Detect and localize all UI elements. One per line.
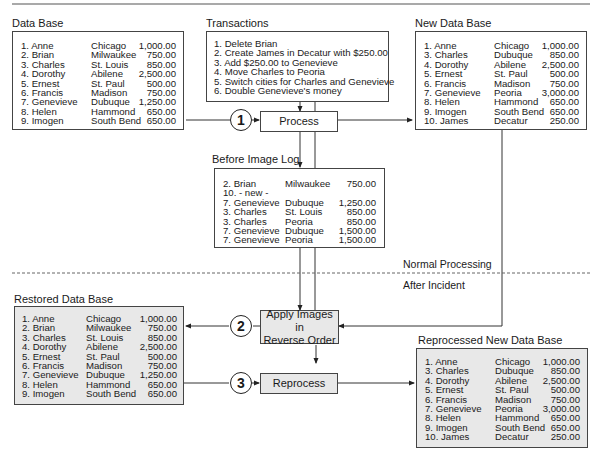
- data-base-title: Data Base: [12, 17, 63, 29]
- apply-images-box: Apply Images in Reverse Order: [260, 310, 339, 344]
- before-image-log-title: Before Image Log: [212, 153, 299, 165]
- restored-data-base-box: 1. AnneChicago1,000.00 2. BrianMilwaukee…: [14, 306, 184, 405]
- process-box: Process: [260, 111, 338, 132]
- table-row: 10. JamesDecatur250.00: [425, 432, 580, 441]
- data-base-table: 1. AnneChicago1,000.00 2. BrianMilwaukee…: [21, 41, 176, 126]
- restored-data-base-table: 1. AnneChicago1,000.00 2. BrianMilwaukee…: [22, 314, 177, 399]
- before-image-log-table: 2. BrianMilwaukee750.00 10. - new - 7. G…: [223, 179, 378, 245]
- list-item: 6. Double Genevieve's money: [214, 86, 394, 95]
- new-data-base-table: 1. AnneChicago1,000.00 3. CharlesDubuque…: [424, 41, 579, 126]
- new-data-base-box: 1. AnneChicago1,000.00 3. CharlesDubuque…: [415, 31, 587, 130]
- table-row: 9. ImogenSouth Bend650.00: [21, 116, 176, 125]
- apply-images-label-line1: Apply Images in: [261, 308, 338, 334]
- table-row: 7. GenevievePeoria1,500.00: [223, 235, 378, 244]
- table-row: 10. JamesDecatur250.00: [424, 116, 579, 125]
- data-base-box: 1. AnneChicago1,000.00 2. BrianMilwaukee…: [12, 31, 184, 130]
- before-image-log-box: 2. BrianMilwaukee750.00 10. - new - 7. G…: [214, 168, 385, 248]
- new-data-base-title: New Data Base: [415, 17, 491, 29]
- table-row: 9. ImogenSouth Bend650.00: [22, 389, 177, 398]
- step-3-badge: 3: [230, 372, 252, 394]
- reprocess-box: Reprocess: [260, 373, 338, 394]
- reprocessed-new-data-base-table: 1. AnneChicago1,000.00 3. CharlesDubuque…: [425, 357, 580, 442]
- after-incident-label: After Incident: [403, 279, 465, 291]
- transactions-list: 1. Delete Brian 2. Create James in Decat…: [214, 39, 394, 95]
- normal-processing-label: Normal Processing: [403, 258, 492, 270]
- step-1-badge: 1: [230, 109, 252, 131]
- reprocessed-new-data-base-title: Reprocessed New Data Base: [418, 334, 562, 346]
- transactions-box: 1. Delete Brian 2. Create James in Decat…: [206, 31, 389, 102]
- reprocessed-new-data-base-box: 1. AnneChicago1,000.00 3. CharlesDubuque…: [416, 348, 588, 448]
- step-2-badge: 2: [230, 315, 252, 337]
- transactions-title: Transactions: [206, 17, 269, 29]
- restored-data-base-title: Restored Data Base: [14, 293, 113, 305]
- apply-images-label-line2: Reverse Order: [263, 334, 335, 347]
